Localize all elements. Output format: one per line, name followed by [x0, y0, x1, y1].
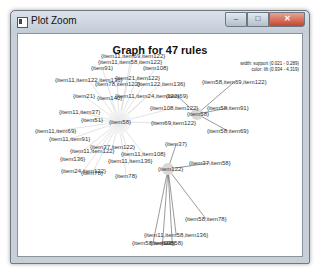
- rule-item-label: {item78}: [81, 170, 103, 176]
- maximize-button[interactable]: □: [247, 12, 269, 27]
- title-bar[interactable]: Plot Zoom – □ ✕: [11, 11, 309, 33]
- rule-item-label: {item11,item58,item136}: [144, 232, 208, 238]
- rule-item-label: {item51}: [81, 117, 103, 123]
- rule-item-label: {item37}: [165, 141, 187, 147]
- rule-item-label: {item11,item136}: [108, 158, 153, 164]
- hub-label: {item58}: [109, 119, 131, 125]
- rule-item-label: {item78,item122}: [95, 81, 140, 87]
- rule-item-label: {item78}: [115, 173, 137, 179]
- rule-item-label: {item11,item37}: [59, 109, 100, 115]
- rule-item-label: {item11,item69}: [35, 128, 76, 134]
- rule-item-label: {item11,item122}: [70, 148, 115, 154]
- window-controls: – □ ✕: [225, 12, 305, 26]
- rule-item-label: {item58,item69,item122}: [202, 79, 267, 85]
- rule-item-label: {item11,item108}: [121, 151, 166, 157]
- minimize-button[interactable]: –: [225, 12, 247, 27]
- rule-item-label: {item69,item122}: [151, 120, 196, 126]
- rule-item-label: {item11,item91}: [49, 136, 90, 142]
- rule-item-label: {item69}: [166, 93, 188, 99]
- plot-zoom-window: Plot Zoom – □ ✕ Graph for 47 rules width…: [10, 10, 310, 264]
- app-icon: [17, 17, 28, 28]
- rule-item-label: {item58,item78}: [185, 216, 227, 222]
- hub-label: {item58}: [187, 111, 209, 117]
- rule-item-label: {item58}: [161, 240, 183, 246]
- rule-item-label: {item122,item136}: [137, 81, 185, 87]
- rule-item-label: {item108}: [143, 65, 168, 71]
- rule-item-label: {item91}: [91, 65, 113, 71]
- window-title: Plot Zoom: [31, 15, 77, 26]
- rule-item-label: {item37,item58}: [189, 160, 231, 166]
- close-button[interactable]: ✕: [269, 12, 305, 27]
- hub-label: {item122}: [158, 166, 183, 172]
- rule-item-label: {item136}: [60, 156, 85, 162]
- rule-item-label: {item21}: [73, 93, 95, 99]
- plot-canvas: Graph for 47 rules width: support (0.021…: [17, 33, 303, 257]
- rule-item-label: {item58,item69}: [207, 128, 249, 134]
- rule-item-label: {item58,item91}: [207, 105, 249, 111]
